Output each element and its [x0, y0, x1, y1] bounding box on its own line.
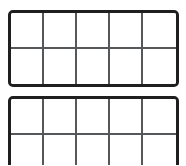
ten-frame-top[interactable] — [8, 10, 179, 87]
ten-frame-cell[interactable] — [143, 99, 176, 135]
ten-frame-cell[interactable] — [44, 135, 77, 166]
worksheet-canvas — [0, 0, 186, 165]
ten-frame-cell[interactable] — [44, 99, 77, 135]
ten-frame-cell[interactable] — [44, 49, 77, 85]
ten-frame-cell[interactable] — [110, 99, 143, 135]
ten-frame-cell[interactable] — [11, 49, 44, 85]
ten-frame-cell[interactable] — [143, 135, 176, 166]
ten-frame-cell[interactable] — [110, 13, 143, 49]
ten-frame-cell[interactable] — [110, 49, 143, 85]
ten-frame-cell[interactable] — [77, 49, 110, 85]
ten-frame-cell[interactable] — [77, 99, 110, 135]
ten-frame-cell[interactable] — [110, 135, 143, 166]
ten-frame-cell[interactable] — [11, 99, 44, 135]
ten-frame-cell[interactable] — [143, 13, 176, 49]
ten-frame-cell[interactable] — [143, 49, 176, 85]
ten-frame-cell[interactable] — [11, 13, 44, 49]
ten-frame-cell[interactable] — [77, 135, 110, 166]
ten-frame-cell[interactable] — [44, 13, 77, 49]
ten-frame-cell[interactable] — [77, 13, 110, 49]
ten-frame-cell[interactable] — [11, 135, 44, 166]
ten-frame-bottom[interactable] — [8, 96, 179, 165]
